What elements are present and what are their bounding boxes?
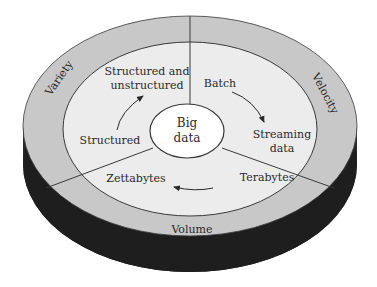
label-batch: Batch: [204, 77, 236, 90]
big-data-diagram: Big data Variety Velocity Volume Structu…: [0, 0, 377, 287]
label-structured: Structured: [80, 134, 141, 147]
label-streaming: Streaming: [253, 128, 311, 141]
center-label-line2: data: [174, 131, 201, 145]
label-data: data: [270, 142, 295, 155]
center-label-line1: Big: [177, 116, 198, 130]
label-volume: Volume: [170, 223, 212, 236]
label-zettabytes: Zettabytes: [106, 172, 166, 185]
label-structured-unstructured-1: Structured and: [105, 65, 190, 78]
label-terabytes: Terabytes: [240, 171, 295, 184]
label-structured-unstructured-2: unstructured: [110, 79, 183, 92]
